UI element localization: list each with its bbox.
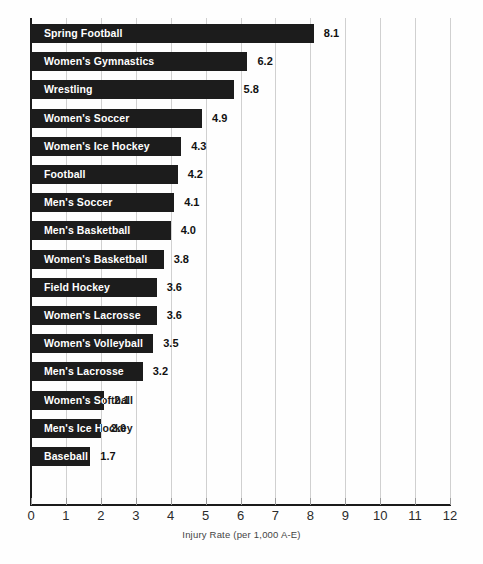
- bar-row[interactable]: Women's Volleyball3.5: [31, 334, 450, 353]
- x-tick-label-6: 6: [226, 508, 256, 523]
- bar-row[interactable]: Women's Ice Hockey4.3: [31, 137, 450, 156]
- x-tick-label-10: 10: [365, 508, 395, 523]
- bar-value-label: 4.1: [184, 193, 199, 212]
- x-tick-label-1: 1: [51, 508, 81, 523]
- bar-category-label-overflow: Women's Softball: [104, 391, 135, 410]
- bar-value-label: 3.2: [153, 362, 168, 381]
- bar-value-label: 4.2: [188, 165, 203, 184]
- x-tick-mark-0: [31, 498, 32, 505]
- bar-category-label: Men's Basketball: [44, 221, 130, 240]
- x-tick-mark-12: [450, 498, 451, 505]
- x-tick-label-4: 4: [156, 508, 186, 523]
- x-tick-mark-1: [66, 498, 67, 505]
- bar-value-label: 6.2: [257, 52, 272, 71]
- x-tick-label-0: 0: [16, 508, 46, 523]
- bar-value-label: 1.7: [100, 447, 115, 466]
- bar-row[interactable]: Field Hockey3.6: [31, 278, 450, 297]
- x-tick-mark-3: [136, 498, 137, 505]
- bar-category-label: Women's Gymnastics: [44, 52, 154, 71]
- bar-category-label: Men's Lacrosse: [44, 362, 124, 381]
- bar-category-label: Women's Basketball: [44, 250, 147, 269]
- bar-category-label: Men's Ice Hockey: [44, 419, 101, 438]
- bar-value-label: 3.5: [163, 334, 178, 353]
- bar-category-label-overflow: Men's Ice Hockey: [101, 419, 135, 438]
- bar-category-label: Women's Lacrosse: [44, 306, 141, 325]
- x-tick-label-12: 12: [435, 508, 465, 523]
- bar-category-label: Women's Ice Hockey: [44, 137, 150, 156]
- bar-row[interactable]: Men's Basketball4.0: [31, 221, 450, 240]
- bar-category-label: Wrestling: [44, 80, 93, 99]
- x-tick-label-3: 3: [121, 508, 151, 523]
- bar-category-label: Women's Soccer: [44, 109, 129, 128]
- bar-row[interactable]: 2.0Men's Ice HockeyMen's Ice Hockey: [31, 419, 450, 438]
- bar-row[interactable]: 2.1Women's SoftballWomen's Softball: [31, 391, 450, 410]
- gridline-12: [450, 18, 451, 504]
- bar-value-label: 4.3: [191, 137, 206, 156]
- bar-value-label: 3.6: [167, 278, 182, 297]
- x-tick-label-2: 2: [86, 508, 116, 523]
- x-tick-label-11: 11: [400, 508, 430, 523]
- bar-row[interactable]: Spring Football8.1: [31, 24, 450, 43]
- x-tick-mark-5: [206, 498, 207, 505]
- bar-value-label: 4.9: [212, 109, 227, 128]
- x-tick-mark-8: [310, 498, 311, 505]
- x-tick-mark-10: [380, 498, 381, 505]
- bar-value-label: 3.6: [167, 306, 182, 325]
- bar-row[interactable]: Women's Lacrosse3.6: [31, 306, 450, 325]
- x-tick-mark-4: [171, 498, 172, 505]
- bar-row[interactable]: Baseball1.7: [31, 447, 450, 466]
- bar-value-label: 3.8: [174, 250, 189, 269]
- injury-rate-bar-chart: Injury Rate (per 1,000 A-E) 012345678910…: [0, 0, 483, 564]
- bar-row[interactable]: Women's Soccer4.9: [31, 109, 450, 128]
- x-tick-label-5: 5: [191, 508, 221, 523]
- bar-row[interactable]: Football4.2: [31, 165, 450, 184]
- bar-category-label: Baseball: [44, 447, 88, 466]
- x-axis-title: Injury Rate (per 1,000 A-E): [0, 529, 483, 540]
- x-tick-label-7: 7: [260, 508, 290, 523]
- bar-value-label: 8.1: [324, 24, 339, 43]
- x-tick-mark-9: [345, 498, 346, 505]
- bar-row[interactable]: Women's Gymnastics6.2: [31, 52, 450, 71]
- bar-category-label: Women's Softball: [44, 391, 104, 410]
- x-tick-label-8: 8: [295, 508, 325, 523]
- bar-category-label: Spring Football: [44, 24, 123, 43]
- bar-value-label: 5.8: [244, 80, 259, 99]
- x-tick-mark-11: [415, 498, 416, 505]
- x-tick-mark-7: [275, 498, 276, 505]
- x-tick-mark-2: [101, 498, 102, 505]
- x-tick-label-9: 9: [330, 508, 360, 523]
- bar-row[interactable]: Men's Lacrosse3.2: [31, 362, 450, 381]
- bar-category-label: Field Hockey: [44, 278, 110, 297]
- bar-category-label: Women's Volleyball: [44, 334, 143, 353]
- bar-row[interactable]: Wrestling5.8: [31, 80, 450, 99]
- bar-category-label: Football: [44, 165, 86, 184]
- bar-category-label: Men's Soccer: [44, 193, 112, 212]
- bar-row[interactable]: Women's Basketball3.8: [31, 250, 450, 269]
- bar-row[interactable]: Men's Soccer4.1: [31, 193, 450, 212]
- bar-value-label: 4.0: [181, 221, 196, 240]
- x-tick-mark-6: [241, 498, 242, 505]
